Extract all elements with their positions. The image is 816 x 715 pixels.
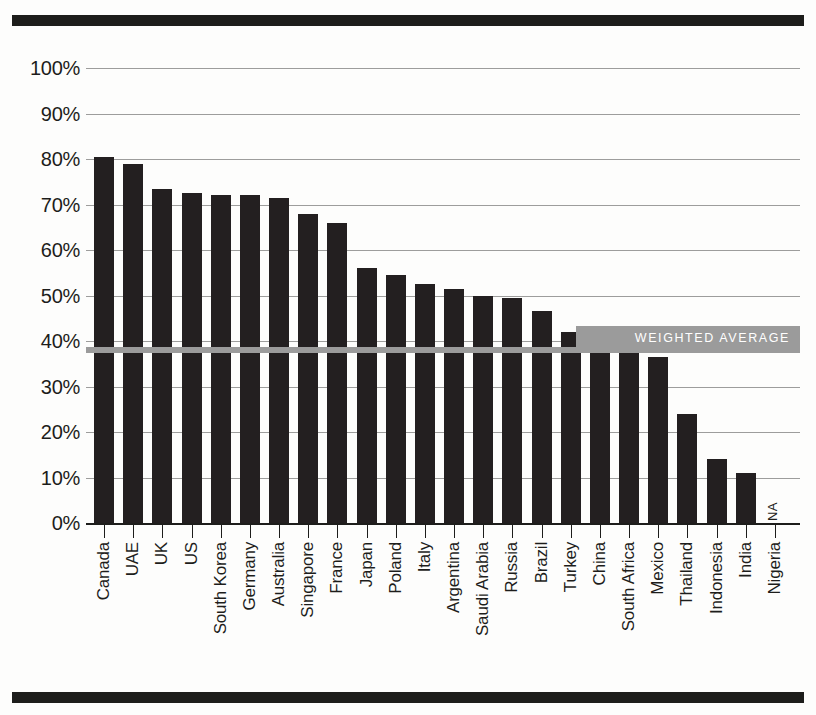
x-axis-category-label: Russia xyxy=(502,542,522,593)
x-axis-category-label: Thailand xyxy=(677,542,697,606)
bar xyxy=(240,195,260,523)
x-axis-tick-mark xyxy=(250,525,251,538)
plot-area: 100%90%80%70%60%50%40%30%20%10%0% NA WEI… xyxy=(86,68,800,523)
bar xyxy=(327,223,347,523)
x-axis-tick-mark xyxy=(308,525,309,538)
x-axis-tick-mark xyxy=(367,525,368,538)
y-axis-tick-label: 0% xyxy=(52,512,80,535)
x-axis-tick-mark xyxy=(133,525,134,538)
x-axis-category-label: South Korea xyxy=(211,542,231,634)
bar xyxy=(736,473,756,523)
bar xyxy=(123,164,143,523)
x-axis-tick-mark xyxy=(104,525,105,538)
x-axis-category-label: Canada xyxy=(94,542,114,600)
x-axis-tick-mark xyxy=(483,525,484,538)
x-axis-category-label: Indonesia xyxy=(707,542,727,614)
x-axis-category-label: Australia xyxy=(269,542,289,606)
x-axis-tick-mark xyxy=(454,525,455,538)
y-axis-tick-label: 70% xyxy=(41,193,80,216)
bar xyxy=(269,198,289,523)
y-axis-tick-label: 20% xyxy=(41,421,80,444)
gridline xyxy=(86,159,800,160)
bottom-divider-rule xyxy=(12,692,804,703)
y-axis-tick-label: 10% xyxy=(41,466,80,489)
x-axis-tick-mark xyxy=(221,525,222,538)
bar xyxy=(473,296,493,524)
x-axis-tick-mark xyxy=(658,525,659,538)
x-axis-tick-mark xyxy=(687,525,688,538)
weighted-average-badge: WEIGHTED AVERAGE xyxy=(576,326,800,350)
x-axis-category-label: Italy xyxy=(415,542,435,572)
bar xyxy=(298,214,318,523)
x-axis-category-label: Singapore xyxy=(298,542,318,618)
x-axis-tick-mark xyxy=(600,525,601,538)
y-axis-tick-label: 80% xyxy=(41,148,80,171)
x-axis-tick-mark xyxy=(571,525,572,538)
bar xyxy=(386,275,406,523)
y-axis-tick-label: 100% xyxy=(30,57,80,80)
bar xyxy=(619,348,639,523)
x-axis-category-label: Argentina xyxy=(444,542,464,613)
x-axis-category-label: Mexico xyxy=(648,542,668,595)
x-axis-tick-mark xyxy=(775,525,776,538)
y-axis-tick-label: 60% xyxy=(41,239,80,262)
bar xyxy=(444,289,464,523)
y-axis-tick-label: 90% xyxy=(41,102,80,125)
x-axis-tick-mark xyxy=(279,525,280,538)
x-axis-tick-mark xyxy=(192,525,193,538)
x-axis-category-label: Japan xyxy=(357,542,377,587)
y-axis-tick-label: 30% xyxy=(41,375,80,398)
x-axis-category-label: South Africa xyxy=(619,542,639,631)
x-axis-category-label: US xyxy=(182,542,202,565)
x-axis-category-label: Germany xyxy=(240,542,260,611)
x-axis-tick-mark xyxy=(512,525,513,538)
x-axis-tick-mark xyxy=(162,525,163,538)
x-axis-category-label: France xyxy=(327,542,347,594)
bar xyxy=(211,195,231,523)
bar xyxy=(532,311,552,523)
bar xyxy=(94,157,114,523)
x-axis-category-label: UAE xyxy=(123,542,143,576)
top-divider-rule xyxy=(12,15,804,26)
gridline xyxy=(86,114,800,115)
x-axis-category-label: Nigeria xyxy=(765,542,785,594)
x-axis-category-label: Poland xyxy=(386,542,406,594)
gridline xyxy=(86,68,800,69)
x-axis-tick-mark xyxy=(717,525,718,538)
y-axis-tick-label: 50% xyxy=(41,284,80,307)
x-axis-tick-mark xyxy=(337,525,338,538)
bar xyxy=(707,459,727,523)
bar xyxy=(561,332,581,523)
bar xyxy=(415,284,435,523)
x-axis-category-label: China xyxy=(590,542,610,585)
x-axis-line xyxy=(86,523,800,525)
x-axis-tick-mark xyxy=(396,525,397,538)
x-axis-category-label: Brazil xyxy=(532,542,552,583)
y-axis-tick-label: 40% xyxy=(41,330,80,353)
bar-chart-figure: 100%90%80%70%60%50%40%30%20%10%0% NA WEI… xyxy=(0,0,816,715)
x-axis-category-label: Saudi Arabia xyxy=(473,542,493,636)
bar-value-label: NA xyxy=(765,502,785,521)
x-axis-tick-mark xyxy=(542,525,543,538)
bar xyxy=(502,298,522,523)
bar xyxy=(182,193,202,523)
x-axis-tick-mark xyxy=(629,525,630,538)
x-axis-category-label: UK xyxy=(152,542,172,565)
x-axis-tick-mark xyxy=(746,525,747,538)
bar xyxy=(590,339,610,523)
bar xyxy=(152,189,172,523)
x-axis-tick-mark xyxy=(425,525,426,538)
x-axis-category-label: Turkey xyxy=(561,542,581,592)
x-axis-category-label: India xyxy=(736,542,756,578)
bar xyxy=(648,357,668,523)
bar xyxy=(357,268,377,523)
bar xyxy=(677,414,697,523)
